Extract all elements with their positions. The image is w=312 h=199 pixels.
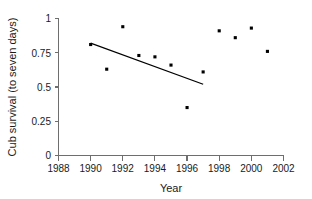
data-point (169, 64, 172, 67)
data-point (89, 43, 92, 46)
y-axis-ticks (55, 19, 59, 156)
x-tick-label: 1996 (176, 163, 199, 174)
x-tick-label: 1990 (79, 163, 102, 174)
data-point (218, 29, 221, 32)
y-tick-label: 1 (45, 13, 51, 24)
data-point (250, 27, 253, 30)
y-tick-label: 0 (45, 150, 51, 161)
x-tick-label: 2000 (240, 163, 263, 174)
data-point (234, 36, 237, 39)
data-point (202, 70, 205, 73)
y-tick-label: 0.25 (32, 116, 52, 127)
trend-line (91, 43, 203, 84)
data-point (105, 68, 108, 71)
data-point (137, 54, 140, 57)
chart-figure: 1 0.75 0.5 0.25 0 1988 1990 1992 1994 19… (0, 0, 312, 199)
data-point (121, 25, 124, 28)
data-point (153, 55, 156, 58)
x-tick-label: 1998 (208, 163, 231, 174)
x-axis-tick-labels: 1988 1990 1992 1994 1996 1998 2000 2002 (47, 163, 295, 174)
data-point (186, 106, 189, 109)
y-axis-tick-labels: 1 0.75 0.5 0.25 0 (32, 13, 52, 161)
x-tick-label: 1992 (112, 163, 135, 174)
y-axis-title: Cub survival (to seven days) (6, 18, 18, 157)
x-axis-ticks (59, 156, 284, 161)
data-points-group (89, 25, 269, 109)
y-tick-label: 0.75 (32, 48, 52, 59)
data-point (266, 50, 269, 53)
x-tick-label: 1994 (144, 163, 167, 174)
x-axis-title: Year (160, 182, 183, 194)
x-tick-label: 1988 (47, 163, 70, 174)
y-tick-label: 0.5 (37, 82, 51, 93)
x-tick-label: 2002 (272, 163, 295, 174)
scatter-plot: 1 0.75 0.5 0.25 0 1988 1990 1992 1994 19… (0, 0, 312, 199)
